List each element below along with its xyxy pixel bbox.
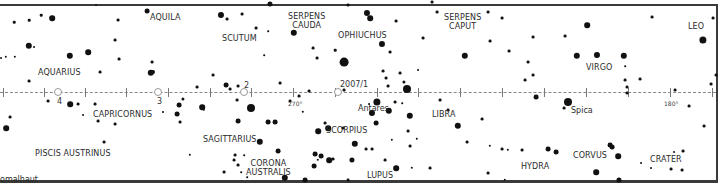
ecliptic-tick [126,88,127,97]
star [710,83,713,86]
star [324,122,327,125]
star [5,56,7,58]
ecliptic-tick [670,88,671,97]
star [236,119,241,124]
star [455,123,461,129]
star [374,121,379,126]
star [715,74,718,77]
ecliptic-tick [712,88,713,97]
star [332,158,335,161]
star [317,159,319,161]
star [315,128,321,134]
frame-bottom-border [0,180,718,183]
star [409,145,412,148]
star [33,46,35,48]
star [564,35,567,38]
star [501,17,504,20]
star [14,56,16,58]
star [534,95,539,100]
star [196,86,199,89]
ecliptic-tick [502,88,503,97]
star [626,86,629,89]
star [367,15,373,21]
star [3,125,9,131]
ecliptic-tick [544,88,545,97]
star [401,102,403,104]
star [699,36,706,43]
star [429,167,432,170]
star [365,148,368,151]
constellation-label: AQUILA [150,13,181,22]
constellation-label: CRATER [650,155,682,164]
star [151,61,154,64]
constellation-label: LIBRA [432,110,456,119]
ecliptic-tick [418,88,419,97]
ecliptic-line [0,92,716,93]
star [682,150,685,153]
star [257,139,263,145]
star [347,4,350,7]
star [189,154,191,156]
star [532,36,535,39]
star [382,70,385,73]
star [236,99,239,102]
star [521,149,524,152]
star [82,114,84,116]
star [527,61,530,64]
star [402,80,405,83]
star [395,20,398,23]
ecliptic-tick [460,88,461,97]
star [0,57,2,59]
star [371,148,374,151]
star [593,169,599,175]
star [688,105,691,108]
star [674,89,677,92]
star [347,179,350,182]
star [224,83,229,88]
constellation-label: SAGITTARIUS [203,135,257,144]
star [316,57,319,60]
star [411,167,413,169]
star [507,149,509,151]
star [97,120,100,123]
star [267,30,269,32]
star [229,88,232,91]
ecliptic-degree-label: 270° [288,100,302,107]
star [670,168,673,171]
star [103,141,106,144]
star [223,171,226,174]
star [384,159,387,162]
star [266,120,271,125]
constellation-label: SERPENSCAPUT [444,13,481,31]
star [615,153,621,159]
ecliptic-tick [168,88,169,97]
star [47,100,50,103]
ecliptic-tick [251,88,252,97]
star [237,85,240,88]
star [481,118,484,121]
star [546,147,551,152]
star [145,9,150,14]
ecliptic-tick [85,88,86,97]
star [118,58,121,61]
ecliptic-tick [210,88,211,97]
star [148,70,154,76]
constellation-label: AQUARIUS [38,68,81,77]
constellation-label: LEO [688,22,704,31]
star [162,111,164,113]
star [436,11,439,14]
star [250,109,252,111]
star-name-label: Spica [571,106,593,115]
star [298,95,301,98]
star [393,165,399,171]
star [501,148,504,151]
star [312,47,315,50]
star [610,145,615,150]
star [394,101,397,104]
ecliptic-tick [377,88,378,97]
constellation-label: SCORPIUS [326,126,367,135]
frame-right-border [716,4,718,183]
constellation-label: CAPRICORNUS [93,110,152,119]
constellation-label: LUPUS [367,171,393,180]
star [621,53,627,59]
